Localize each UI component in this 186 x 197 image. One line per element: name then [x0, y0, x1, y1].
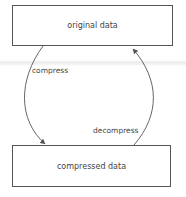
compressed-data-label: compressed data [57, 162, 126, 171]
original-data-node: original data [12, 5, 173, 46]
compressed-data-node: compressed data [12, 145, 171, 187]
compress-arrow [24, 46, 45, 144]
compress-edge-label: compress [32, 66, 68, 75]
original-data-label: original data [67, 21, 117, 30]
decompress-edge-label: decompress [93, 126, 139, 135]
